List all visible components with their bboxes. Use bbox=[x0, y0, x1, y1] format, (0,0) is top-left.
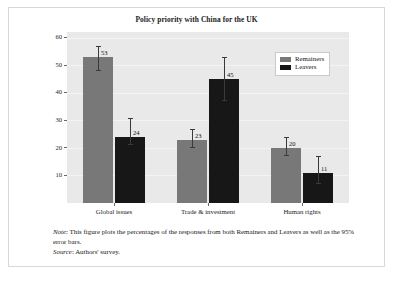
legend-label: Leavers bbox=[295, 64, 317, 71]
legend-item: Leavers bbox=[280, 64, 324, 71]
figure-frame: Policy priority with China for the UK 10… bbox=[8, 7, 385, 267]
error-bar-cap bbox=[190, 147, 195, 148]
bar bbox=[177, 140, 207, 203]
x-axis-label: Human rights bbox=[283, 208, 320, 215]
error-bar-cap bbox=[222, 57, 227, 58]
x-axis-tick-mark bbox=[302, 203, 303, 206]
chart-title: Policy priority with China for the UK bbox=[9, 15, 384, 24]
error-bar-cap bbox=[316, 183, 321, 184]
source-line: Source: Authors' survey. bbox=[53, 247, 365, 257]
note-label: Note bbox=[53, 228, 66, 235]
error-bar bbox=[286, 137, 287, 156]
source-label: Source bbox=[53, 248, 72, 255]
note-line: Note: This figure plots the percentages … bbox=[53, 227, 365, 247]
error-bar bbox=[318, 156, 319, 184]
error-bar-cap bbox=[284, 137, 289, 138]
error-bar-cap bbox=[316, 156, 321, 157]
error-bar bbox=[98, 46, 99, 71]
bar-value-label: 45 bbox=[227, 72, 234, 79]
bar-value-label: 23 bbox=[195, 133, 202, 140]
legend-swatch bbox=[280, 57, 291, 62]
bar-value-label: 20 bbox=[289, 141, 296, 148]
x-axis-label: Global issues bbox=[96, 208, 132, 215]
y-axis-tick-label: 60 bbox=[55, 34, 64, 41]
y-axis-tick-label: 10 bbox=[55, 172, 64, 179]
bar-value-label: 53 bbox=[101, 50, 108, 57]
y-axis-tick-label: 20 bbox=[55, 145, 64, 152]
legend-swatch bbox=[280, 65, 291, 70]
y-axis-tick-label: 30 bbox=[55, 117, 64, 124]
x-axis: Global issuesTrade & investmentHuman rig… bbox=[67, 203, 349, 223]
y-axis-tick-label: 40 bbox=[55, 89, 64, 96]
source-text: : Authors' survey. bbox=[72, 248, 120, 255]
legend-label: Remainers bbox=[295, 56, 324, 63]
note-text: : This figure plots the percentages of t… bbox=[53, 228, 354, 245]
error-bar bbox=[130, 118, 131, 146]
x-axis-tick-mark bbox=[114, 203, 115, 206]
figure-notes: Note: This figure plots the percentages … bbox=[53, 227, 365, 258]
error-bar bbox=[224, 57, 225, 101]
bar bbox=[83, 57, 113, 203]
legend-item: Remainers bbox=[280, 56, 324, 63]
error-bar-cap bbox=[128, 118, 133, 119]
x-axis-label: Trade & investment bbox=[181, 208, 235, 215]
error-bar-cap bbox=[96, 70, 101, 71]
bar-value-label: 11 bbox=[321, 166, 327, 173]
error-bar-cap bbox=[284, 155, 289, 156]
bar-value-label: 24 bbox=[133, 130, 140, 137]
y-axis-tick-label: 50 bbox=[55, 62, 64, 69]
error-bar bbox=[192, 129, 193, 148]
bar bbox=[271, 148, 301, 203]
y-axis: 102030405060 bbox=[9, 32, 67, 203]
x-axis-tick-mark bbox=[208, 203, 209, 206]
gridline bbox=[67, 38, 349, 39]
bar bbox=[115, 137, 145, 203]
chart-legend: RemainersLeavers bbox=[275, 52, 330, 76]
error-bar-cap bbox=[190, 129, 195, 130]
error-bar-cap bbox=[222, 100, 227, 101]
error-bar-cap bbox=[128, 144, 133, 145]
error-bar-cap bbox=[96, 46, 101, 47]
